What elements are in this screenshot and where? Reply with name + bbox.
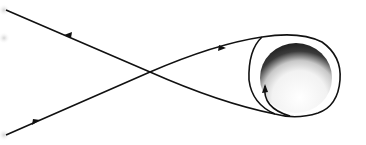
fade-dot [0, 129, 10, 141]
arrow-icon [32, 119, 40, 125]
fade-dot [0, 32, 10, 44]
outbound-path [6, 37, 262, 135]
fade-dot [0, 4, 10, 16]
return-path [6, 10, 275, 114]
trajectory-diagram: free-return-trajectory [0, 0, 366, 145]
diagram-canvas [0, 0, 366, 145]
moon [260, 43, 332, 113]
